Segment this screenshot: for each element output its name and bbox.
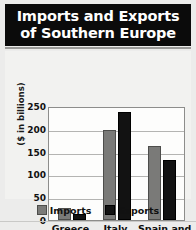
- x-axis-category-labels: Greece Italy Spain and Portugal: [48, 223, 185, 230]
- gridline-200: [49, 131, 184, 132]
- chart-figure: Imports and Exports of Southern Europe (…: [0, 0, 196, 230]
- chart-title-banner: Imports and Exports of Southern Europe: [5, 4, 191, 46]
- chart-title-line-2: of Southern Europe: [20, 25, 176, 42]
- x-label-spain-and-portugal: Spain and Portugal: [138, 223, 183, 230]
- x-label-italy-line1: Italy: [93, 223, 138, 230]
- x-label-spain-and-portugal-line1: Spain and: [138, 223, 183, 230]
- x-label-greece-line1: Greece: [48, 223, 93, 230]
- y-tick-100: 100: [6, 170, 46, 180]
- x-label-greece: Greece: [48, 223, 93, 230]
- chart-title-line-1: Imports and Exports: [17, 8, 180, 25]
- chart-legend: Imports Exports: [5, 199, 191, 221]
- legend-label-imports: Imports: [50, 205, 92, 216]
- y-tick-250: 250: [6, 102, 46, 112]
- exports-swatch-icon: [105, 205, 115, 215]
- legend-item-exports: Exports: [105, 205, 159, 216]
- imports-swatch-icon: [37, 205, 47, 215]
- chart-plot-frame: ($ in billions) 250 200 150 100 50 0 Gre…: [5, 51, 191, 199]
- legend-item-imports: Imports: [37, 205, 92, 216]
- gridline-150: [49, 154, 184, 155]
- legend-label-exports: Exports: [118, 205, 159, 216]
- bottom-divider: [0, 221, 196, 222]
- y-tick-200: 200: [6, 125, 46, 135]
- x-label-italy: Italy: [93, 223, 138, 230]
- y-tick-150: 150: [6, 148, 46, 158]
- title-divider: [5, 47, 191, 49]
